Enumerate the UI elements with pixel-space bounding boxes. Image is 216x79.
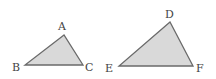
vertex-label-b: B bbox=[12, 61, 20, 74]
triangle-def bbox=[119, 22, 193, 66]
triangle-abc bbox=[25, 35, 83, 65]
vertex-label-e: E bbox=[105, 62, 113, 75]
vertex-label-d: D bbox=[165, 8, 174, 21]
vertex-label-f: F bbox=[196, 62, 204, 75]
similar-triangles-diagram: A B C D E F bbox=[0, 0, 216, 79]
vertex-label-a: A bbox=[57, 20, 67, 33]
vertex-label-c: C bbox=[85, 61, 93, 74]
